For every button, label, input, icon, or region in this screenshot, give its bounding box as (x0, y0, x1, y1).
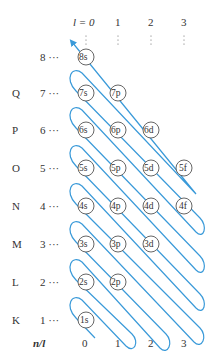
orbital-label: 5p (111, 162, 121, 174)
ellipsis-dots (85, 35, 184, 44)
axis-label-nl: n/l (33, 337, 45, 349)
n-label: 5 ··· (40, 162, 59, 174)
orbital-label: 5s (79, 162, 87, 174)
n-label: 2 ··· (40, 276, 59, 288)
l-value-footer: 2 (148, 337, 154, 349)
orbital-label: 5f (179, 162, 187, 174)
orbital-label: 6d (144, 124, 154, 136)
shell-label: L (12, 276, 19, 288)
l-value-footer: 0 (82, 337, 88, 349)
shell-label: Q (12, 87, 20, 99)
orbital-label: 1s (80, 314, 88, 326)
l-value: 2 (148, 16, 154, 28)
shell-label: K (12, 314, 20, 326)
l-value: 3 (181, 16, 187, 28)
n-label: 8 ··· (40, 51, 59, 63)
orbital-label: 2s (79, 276, 87, 288)
orbital-label: 5d (144, 162, 154, 174)
n-label: 3 ··· (40, 238, 59, 250)
n-label: 1 ··· (40, 314, 59, 326)
shell-label: P (12, 124, 18, 136)
orbital-label: 2p (111, 276, 121, 288)
shell-label: M (12, 238, 22, 250)
n-label: 6 ··· (40, 124, 59, 136)
orbital-label: 7p (111, 87, 121, 99)
l-value: 1 (115, 16, 121, 28)
orbital-label: 3d (144, 238, 154, 250)
shell-label: N (12, 200, 20, 212)
orbital-label: 4p (111, 200, 121, 212)
orbital-label: 4d (144, 200, 154, 212)
orbital-label: 6s (79, 124, 87, 136)
l-axis-label: l = 0 (73, 16, 94, 28)
shell-label: O (12, 162, 20, 174)
orbital-label: 4f (179, 200, 187, 212)
n-label: 4 ··· (40, 200, 59, 212)
orbital-label: 8s (79, 51, 87, 63)
orbital-label: 3s (79, 238, 87, 250)
orbital-label: 7s (79, 87, 87, 99)
orbital-label: 6p (111, 124, 121, 136)
orbital-label: 4s (79, 200, 87, 212)
l-value-footer: 3 (181, 337, 187, 349)
l-value-footer: 1 (115, 337, 121, 349)
aufbau-diagram (0, 0, 209, 356)
n-label: 7 ··· (40, 87, 59, 99)
orbital-label: 3p (111, 238, 121, 250)
